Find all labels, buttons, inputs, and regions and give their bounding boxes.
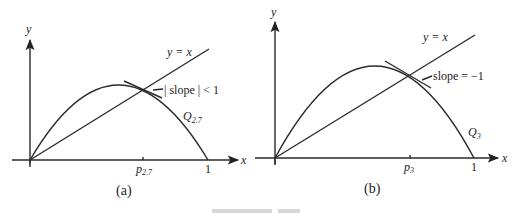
panel-caption: (b) xyxy=(364,181,381,197)
y-axis-label: y xyxy=(25,22,32,36)
identity-line-label: y = x xyxy=(422,30,448,44)
curve-label: Q3 xyxy=(468,125,481,141)
slope-annotation: slope = −1 xyxy=(433,69,484,83)
panel-b: y x y = x slope = −1 Q3 p3 1 (b) xyxy=(255,5,508,197)
panel-caption: (a) xyxy=(116,183,132,199)
x-axis-label: x xyxy=(501,151,508,165)
identity-line-label: y = x xyxy=(166,45,192,59)
fixed-point-label: p2.7 xyxy=(135,162,153,177)
slope-annotation: | slope | < 1 xyxy=(164,83,219,97)
x-axis-label: x xyxy=(240,153,247,167)
annotation-leader xyxy=(153,89,163,90)
annotation-leader xyxy=(422,76,432,80)
x-end-tick-label: 1 xyxy=(471,160,477,174)
fixed-point-label: p3 xyxy=(403,160,414,175)
y-axis-label: y xyxy=(270,5,277,19)
figure-logistic-maps: y x y = x | slope | < 1 Q2.7 p2.7 1 (a) … xyxy=(0,0,517,213)
panel-a: y x y = x | slope | < 1 Q2.7 p2.7 1 (a) xyxy=(12,22,247,199)
cropped-caption-remnant xyxy=(212,209,300,213)
curve-label: Q2.7 xyxy=(183,109,203,125)
tangent-line xyxy=(385,61,431,88)
x-end-tick-label: 1 xyxy=(205,162,211,176)
identity-line xyxy=(275,35,475,158)
identity-line xyxy=(30,49,209,160)
